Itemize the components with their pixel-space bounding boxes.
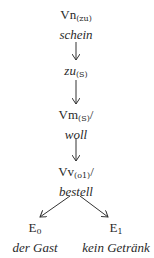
node-verb-word: bestell — [46, 184, 106, 200]
node-verb-label: Vv — [58, 164, 74, 179]
node-e0-sub: 0 — [36, 227, 41, 236]
node-verb-suffix: / — [90, 164, 94, 179]
node-root: Vn(zu) schein — [46, 6, 106, 43]
node-e1: E1 kein Getränk — [78, 219, 154, 256]
node-e1-sub: 1 — [117, 227, 122, 236]
node-zu: zu(S) — [46, 62, 106, 83]
node-modal-label: Vm — [59, 107, 79, 122]
node-root-label: Vn — [60, 7, 76, 22]
node-modal: Vm(S)/ woll — [46, 106, 106, 143]
node-e0-word: der Gast — [4, 240, 66, 256]
node-zu-sub: (S) — [76, 70, 88, 79]
node-zu-label: zu — [64, 63, 76, 78]
node-e1-word: kein Getränk — [78, 240, 154, 256]
node-verb-sub: (o1) — [74, 171, 90, 180]
node-e0: E0 der Gast — [4, 219, 66, 256]
node-modal-word: woll — [46, 127, 106, 143]
node-verb: Vv(o1)/ bestell — [46, 163, 106, 200]
node-modal-sub: (S) — [78, 114, 90, 123]
node-root-sub: (zu) — [76, 14, 92, 23]
node-root-word: schein — [46, 27, 106, 43]
node-modal-suffix: / — [90, 107, 94, 122]
